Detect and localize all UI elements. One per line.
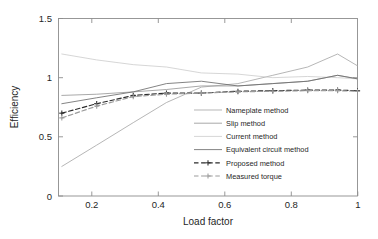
x-tick-label-3: 0.8 bbox=[285, 199, 298, 210]
series-line-current-method bbox=[62, 54, 358, 79]
x-tick-label-2: 0.6 bbox=[218, 199, 231, 210]
x-tick-label-1: 0.4 bbox=[152, 199, 165, 210]
x-tick-label-4: 1 bbox=[355, 199, 360, 210]
data-point-marker bbox=[305, 88, 310, 93]
legend-label: Slip method bbox=[226, 119, 265, 128]
data-point-marker bbox=[59, 115, 64, 120]
data-point-marker bbox=[355, 89, 360, 94]
legend-label: Proposed method bbox=[226, 159, 284, 168]
efficiency-vs-load-factor-chart: 0.2 0.4 0.6 0.8 1 0 0.5 1 1.5 Load facto… bbox=[0, 0, 378, 239]
legend-entry-slip-method[interactable]: Slip method bbox=[194, 119, 265, 128]
chart-legend: Nameplate methodSlip methodCurrent metho… bbox=[194, 106, 309, 181]
x-axis-title: Load factor bbox=[183, 216, 234, 227]
plot-frame bbox=[59, 19, 358, 197]
data-point-marker bbox=[199, 90, 204, 95]
chart-figure: 0.2 0.4 0.6 0.8 1 0 0.5 1 1.5 Load facto… bbox=[0, 0, 378, 239]
legend-label: Current method bbox=[226, 132, 277, 141]
y-tick-label-1: 0.5 bbox=[39, 131, 52, 142]
data-point-marker bbox=[270, 89, 275, 94]
y-axis-ticks bbox=[59, 19, 358, 197]
series-line-measured-torque bbox=[62, 91, 358, 118]
legend-label: Measured torque bbox=[226, 172, 282, 181]
y-tick-label-3: 1.5 bbox=[39, 13, 52, 24]
y-tick-label-2: 1 bbox=[47, 72, 52, 83]
legend-label: Nameplate method bbox=[226, 106, 288, 115]
data-point-marker bbox=[335, 88, 340, 93]
series-line-equivalent-circuit-method bbox=[62, 75, 358, 103]
legend-entry-measured-torque[interactable]: Measured torque bbox=[194, 172, 282, 181]
y-tick-label-0: 0 bbox=[47, 191, 52, 202]
legend-label: Equivalent circuit method bbox=[226, 145, 309, 154]
legend-entry-equivalent-circuit-method[interactable]: Equivalent circuit method bbox=[194, 145, 309, 154]
legend-entry-proposed-method[interactable]: Proposed method bbox=[194, 159, 284, 168]
y-axis-title: Efficiency bbox=[9, 86, 20, 129]
legend-entry-current-method[interactable]: Current method bbox=[194, 132, 277, 141]
data-point-marker bbox=[59, 111, 64, 116]
data-point-marker bbox=[94, 103, 99, 108]
data-point-marker bbox=[235, 89, 240, 94]
x-axis-ticks bbox=[92, 19, 358, 197]
data-point-marker bbox=[164, 92, 169, 97]
legend-entry-nameplate-method[interactable]: Nameplate method bbox=[194, 106, 288, 115]
x-tick-label-0: 0.2 bbox=[85, 199, 98, 210]
